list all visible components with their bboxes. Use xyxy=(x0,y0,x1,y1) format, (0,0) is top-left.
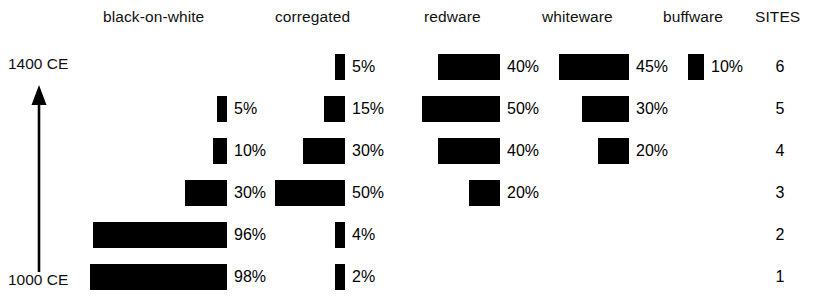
bar-value-label: 40% xyxy=(507,46,539,88)
bar-value-label: 10% xyxy=(711,46,743,88)
site-number: 4 xyxy=(760,130,800,172)
chart-row: 98%2%1 xyxy=(0,256,835,298)
bar-group-corregated: 5% xyxy=(335,46,345,88)
bar-value-label: 30% xyxy=(234,172,266,214)
bar-black-on-white xyxy=(213,138,227,164)
bar-group-black-on-white: 30% xyxy=(185,172,227,214)
bar-value-label: 30% xyxy=(636,88,668,130)
bar-group-whiteware: 20% xyxy=(598,130,629,172)
bar-value-label: 98% xyxy=(234,256,266,298)
column-header-buffware: buffware xyxy=(663,8,723,26)
chart-row: 5%40%45%10%6 xyxy=(0,46,835,88)
bar-value-label: 50% xyxy=(352,172,384,214)
bar-value-label: 2% xyxy=(352,256,375,298)
bar-group-corregated: 30% xyxy=(303,130,345,172)
bar-group-corregated: 4% xyxy=(335,214,345,256)
site-number: 5 xyxy=(760,88,800,130)
bar-group-buffware: 10% xyxy=(688,46,704,88)
site-number: 6 xyxy=(760,46,800,88)
bar-group-redware: 40% xyxy=(438,46,500,88)
chart-row: 30%50%20%3 xyxy=(0,172,835,214)
bar-group-redware: 20% xyxy=(469,172,500,214)
bar-black-on-white xyxy=(217,96,227,122)
bar-corregated xyxy=(335,222,345,248)
bar-black-on-white xyxy=(90,264,227,290)
bar-corregated xyxy=(324,96,345,122)
chart-row: 10%30%40%20%4 xyxy=(0,130,835,172)
column-header-sites: SITES xyxy=(755,8,800,26)
bar-black-on-white xyxy=(185,180,227,206)
bar-value-label: 15% xyxy=(352,88,384,130)
bar-whiteware xyxy=(559,54,629,80)
bar-value-label: 30% xyxy=(352,130,384,172)
bar-group-black-on-white: 98% xyxy=(90,256,227,298)
bar-redware xyxy=(438,54,500,80)
bar-value-label: 5% xyxy=(352,46,375,88)
bar-black-on-white xyxy=(93,222,227,248)
bar-redware xyxy=(422,96,500,122)
site-number: 3 xyxy=(760,172,800,214)
bar-corregated xyxy=(335,54,345,80)
bar-value-label: 40% xyxy=(507,130,539,172)
bar-value-label: 4% xyxy=(352,214,375,256)
bar-group-whiteware: 30% xyxy=(582,88,629,130)
bar-redware xyxy=(438,138,500,164)
bar-value-label: 45% xyxy=(636,46,668,88)
bar-group-redware: 40% xyxy=(438,130,500,172)
bar-value-label: 5% xyxy=(234,88,257,130)
seriation-chart: black-on-white corregated redware whitew… xyxy=(0,0,835,304)
site-number: 2 xyxy=(760,214,800,256)
column-header-redware: redware xyxy=(424,8,481,26)
bar-value-label: 20% xyxy=(507,172,539,214)
chart-row: 96%4%2 xyxy=(0,214,835,256)
bar-group-black-on-white: 10% xyxy=(213,130,227,172)
bar-group-redware: 50% xyxy=(422,88,500,130)
bar-value-label: 20% xyxy=(636,130,668,172)
bar-value-label: 50% xyxy=(507,88,539,130)
column-header-corregated: corregated xyxy=(275,8,350,26)
bar-group-black-on-white: 96% xyxy=(93,214,227,256)
bar-group-black-on-white: 5% xyxy=(217,88,227,130)
bar-corregated xyxy=(335,264,345,290)
bar-group-corregated: 50% xyxy=(275,172,345,214)
bar-value-label: 96% xyxy=(234,214,266,256)
bar-redware xyxy=(469,180,500,206)
bar-group-whiteware: 45% xyxy=(559,46,629,88)
column-header-black-on-white: black-on-white xyxy=(103,8,204,26)
bar-corregated xyxy=(303,138,345,164)
bar-value-label: 10% xyxy=(234,130,266,172)
bar-corregated xyxy=(275,180,345,206)
bar-buffware xyxy=(688,54,704,80)
bar-group-corregated: 2% xyxy=(335,256,345,298)
site-number: 1 xyxy=(760,256,800,298)
bar-whiteware xyxy=(582,96,629,122)
bar-whiteware xyxy=(598,138,629,164)
column-header-whiteware: whiteware xyxy=(542,8,613,26)
bar-group-corregated: 15% xyxy=(324,88,345,130)
chart-row: 5%15%50%30%5 xyxy=(0,88,835,130)
